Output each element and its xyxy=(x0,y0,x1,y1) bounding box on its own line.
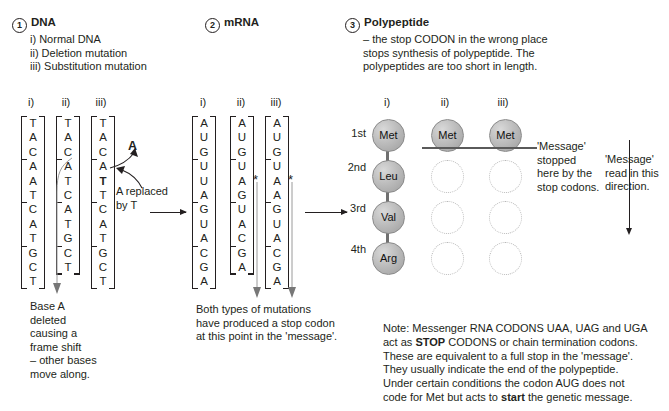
base-letter: T xyxy=(57,116,79,130)
note-line: They usually indicate the end of the pol… xyxy=(383,363,668,377)
sequence-bracket-cap xyxy=(265,116,271,117)
sequence-bracket-cap xyxy=(210,288,216,289)
substitution-caption-line: by T xyxy=(116,199,168,213)
base-letter: U xyxy=(266,159,288,173)
amino-acid-bead-empty xyxy=(431,160,464,193)
base-letter: C xyxy=(92,202,114,216)
sequence-bracket-cap xyxy=(109,288,115,289)
substitution-caption: A replaced by T xyxy=(116,185,168,212)
sequence-bracket-cap xyxy=(74,116,80,117)
mrna-section-title: mRNA xyxy=(224,16,259,28)
mrna-column-roman-ii: ii) xyxy=(228,96,254,108)
amino-acid-bead: Leu xyxy=(372,160,405,193)
sequence-bracket-cap xyxy=(210,116,216,117)
polypeptide-column-roman-iii: iii) xyxy=(490,96,516,108)
base-letter: A xyxy=(92,130,114,144)
dna-section-number: 1 xyxy=(12,18,27,33)
base-letter: C xyxy=(92,260,114,274)
message-stopped-line-text: here by the xyxy=(537,167,599,181)
mrna-column-roman-iii: iii) xyxy=(263,96,289,108)
dna-section-title: DNA xyxy=(31,16,56,28)
sequence-bracket-cap xyxy=(56,116,62,117)
mrna-caption-line: Both types of mutations xyxy=(196,303,337,317)
note-line: These are equivalent to a full stop in t… xyxy=(383,350,668,364)
dna-list-item: i) Normal DNA xyxy=(30,33,147,47)
message-stopped-line xyxy=(422,147,537,149)
base-letter: U xyxy=(193,159,215,173)
sequence-bracket-left xyxy=(230,116,231,274)
base-letter: A xyxy=(193,116,215,130)
polypeptide-ordinal-4th: 4th xyxy=(340,243,366,255)
deletion-caption-line: deleted xyxy=(30,314,97,328)
base-letter: C xyxy=(193,246,215,260)
sequence-bracket-cap xyxy=(39,116,45,117)
sequence-bracket-cap xyxy=(283,116,289,117)
note-line: Note: Messenger RNA CODONS UAA, UAG and … xyxy=(383,322,668,336)
sequence-bracket-cap xyxy=(91,288,97,289)
base-letter: G xyxy=(193,145,215,159)
base-letter: T xyxy=(92,188,114,202)
polypeptide-description-line: polypeptides are too short in length. xyxy=(363,60,593,74)
amino-acid-bead-empty xyxy=(431,242,464,275)
base-letter: T xyxy=(92,116,114,130)
amino-acid-bead-empty xyxy=(489,242,522,275)
deletion-caption-line: causing a xyxy=(30,327,97,341)
mrna-section-number: 2 xyxy=(205,18,220,33)
amino-acid-bead-empty xyxy=(489,160,522,193)
message-stopped-line-text: stopped xyxy=(537,154,599,168)
mrna-column-roman-i: i) xyxy=(190,96,216,108)
reading-direction-line: read in this xyxy=(605,167,659,181)
base-letter: U xyxy=(193,130,215,144)
note-line: act as STOP CODONS or chain termination … xyxy=(383,336,668,350)
base-letter: G xyxy=(231,145,253,159)
message-stopped-line-text: stop codons. xyxy=(537,181,599,195)
stop-codon-leader-ii xyxy=(250,182,264,300)
sequence-bracket-left xyxy=(192,116,193,289)
sequence-bracket-cap xyxy=(21,116,27,117)
base-letter: U xyxy=(193,217,215,231)
base-letter: A xyxy=(193,231,215,245)
base-letter: A xyxy=(92,217,114,231)
polypeptide-column-roman-i: i) xyxy=(374,96,400,108)
note-line: code for Met but acts to start the genet… xyxy=(383,391,668,405)
stop-codon-leader-iii xyxy=(285,182,299,300)
reading-direction-line: direction. xyxy=(605,180,659,194)
polypeptide-ordinal-3rd: 3rd xyxy=(340,202,366,214)
base-letter: A xyxy=(193,274,215,288)
base-letter: T xyxy=(92,274,114,288)
deletion-caption-line: frame shift xyxy=(30,341,97,355)
base-letter: G xyxy=(92,246,114,260)
note-line: Under certain conditions the codon AUG d… xyxy=(383,377,668,391)
amino-acid-bead: Arg xyxy=(372,242,405,275)
base-letter: U xyxy=(231,130,253,144)
base-letter: A xyxy=(57,130,79,144)
message-stopped-line-text: 'Message' xyxy=(537,140,599,154)
base-letter: U xyxy=(193,174,215,188)
base-letter: T xyxy=(22,116,44,130)
mrna-caption-line: have produced a stop codon xyxy=(196,317,337,331)
base-letter: U xyxy=(266,130,288,144)
deletion-caption-line: move along. xyxy=(30,368,97,382)
substitution-caption-line: A replaced xyxy=(116,185,168,199)
note-block: Note: Messenger RNA CODONS UAA, UAG and … xyxy=(383,322,668,405)
sequence-bracket-cap xyxy=(248,116,254,117)
base-letter: A xyxy=(231,116,253,130)
amino-acid-bead: Met xyxy=(372,119,405,152)
dna-list-item: ii) Deletion mutation xyxy=(30,47,147,61)
deletion-caption: Base A deleted causing a frame shift – o… xyxy=(30,300,97,381)
sequence-bracket-cap xyxy=(192,288,198,289)
base-letter: G xyxy=(193,202,215,216)
dna-sequence-column-iii: TACATTCATGCT xyxy=(92,116,114,289)
polypeptide-ordinal-2nd: 2nd xyxy=(340,161,366,173)
sequence-bracket-left xyxy=(265,116,266,289)
sequence-bracket-left xyxy=(91,116,92,289)
mrna-sequence-column-i: AUGUUAGUACGA xyxy=(193,116,215,289)
deletion-caption-line: Base A xyxy=(30,300,97,314)
sequence-bracket-right xyxy=(114,116,115,289)
dna-item-list: i) Normal DNA ii) Deletion mutation iii)… xyxy=(12,33,147,74)
reading-direction-caption: 'Message' read in this direction. xyxy=(605,153,659,194)
base-letter: U xyxy=(231,159,253,173)
reading-direction-line: 'Message' xyxy=(605,153,659,167)
sequence-bracket-cap xyxy=(109,116,115,117)
mrna-section-heading: 2mRNA xyxy=(205,16,259,33)
